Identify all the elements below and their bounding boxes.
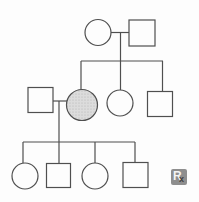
individual-III-4	[123, 163, 148, 188]
individual-III-3	[82, 163, 108, 189]
individual-I-2	[129, 20, 155, 46]
individual-II-3	[107, 90, 133, 116]
individual-II-1	[28, 88, 53, 113]
individual-III-2	[47, 164, 71, 188]
individual-II-4	[148, 92, 173, 117]
individual-shapes	[12, 20, 173, 190]
pedigree-svg	[0, 0, 199, 202]
pedigree-chart: R x	[0, 0, 199, 202]
rx-watermark-x: x	[179, 174, 184, 184]
individual-II-2-affected	[67, 90, 98, 121]
individual-III-1	[12, 163, 38, 189]
rx-watermark: R x	[171, 169, 187, 185]
individual-I-1	[85, 20, 111, 46]
